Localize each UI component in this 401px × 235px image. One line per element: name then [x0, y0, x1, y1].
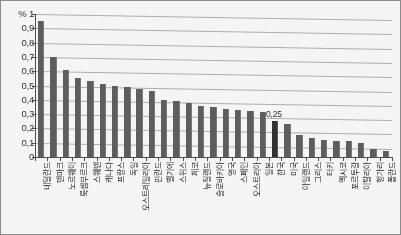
x-axis-tick-mark — [97, 157, 98, 161]
bar — [309, 138, 315, 157]
x-axis-category-label: 오스트레일리아 — [143, 162, 152, 232]
x-axis-category-label: 그리스 — [315, 162, 324, 232]
x-axis-tick-mark — [220, 157, 221, 161]
y-axis-tick-mark — [32, 43, 36, 44]
y-axis-tick-mark — [32, 114, 36, 115]
plot-area: 0,25 — [35, 14, 392, 157]
bar — [284, 124, 290, 157]
bar — [370, 149, 376, 157]
y-axis-tick-label: 0,1 — [4, 138, 34, 147]
bar — [296, 135, 302, 157]
x-axis-tick-mark — [207, 157, 208, 161]
bar — [358, 143, 364, 157]
x-axis-tick-mark — [47, 157, 48, 161]
bar — [149, 91, 155, 157]
x-axis-category-label: 미국 — [291, 162, 300, 232]
x-axis-category-label: 캐나다 — [106, 162, 115, 232]
bar — [321, 140, 327, 157]
x-axis-category-label: 스페인 — [241, 162, 250, 232]
bar — [198, 106, 204, 157]
x-axis-tick-mark — [146, 157, 147, 161]
x-axis-tick-mark — [35, 157, 36, 161]
x-axis-category-label: 뉴질랜드 — [204, 162, 213, 232]
gridline — [35, 28, 392, 35]
x-axis-category-label: 멕시코 — [340, 162, 349, 232]
bar-chart-figure: % 10,90,80,70,60,50,40,30,20,10 0,25 네덜란… — [0, 0, 401, 235]
x-axis-tick-mark — [367, 157, 368, 161]
x-axis-category-label: 덴마크 — [57, 162, 66, 232]
x-axis-category-label: 독일 — [131, 162, 140, 232]
y-axis-tick-label: 0,8 — [4, 38, 34, 47]
x-axis-category-label: 노르웨이 — [69, 162, 78, 232]
x-axis-tick-mark — [195, 157, 196, 161]
x-axis-category-label: 벨기에 — [167, 162, 176, 232]
x-axis-tick-mark — [269, 157, 270, 161]
x-axis-tick-mark — [244, 157, 245, 161]
frame-border-top — [0, 0, 401, 1]
x-axis-category-label: 프랑스 — [118, 162, 127, 232]
bar — [210, 107, 216, 157]
bar — [50, 57, 56, 157]
x-axis-tick-mark — [343, 157, 344, 161]
bar — [161, 100, 167, 157]
x-axis-tick-mark — [121, 157, 122, 161]
y-axis-tick-label: 0,5 — [4, 81, 34, 90]
x-axis-tick-mark — [330, 157, 331, 161]
gridline — [35, 43, 392, 50]
x-axis-category-label: 일본 — [266, 162, 275, 232]
x-axis-category-label: 폴란드 — [389, 162, 398, 232]
bar — [346, 141, 352, 157]
bar — [247, 111, 253, 157]
y-axis-tick-label: 0,9 — [4, 23, 34, 32]
bar — [235, 110, 241, 157]
x-axis-category-label: 핀란드 — [155, 162, 164, 232]
y-axis-tick-label: 0,2 — [4, 123, 34, 132]
bar — [136, 89, 142, 157]
y-axis-tick-mark — [32, 128, 36, 129]
bar — [260, 112, 266, 157]
x-axis-category-label: 영국 — [229, 162, 238, 232]
bar — [124, 87, 130, 157]
bar — [223, 109, 229, 157]
bar — [63, 70, 69, 157]
y-axis-tick-label: 0,3 — [4, 109, 34, 118]
x-axis-tick-mark — [84, 157, 85, 161]
x-axis-category-label: 포르투갈 — [352, 162, 361, 232]
y-axis-tick-label: 0 — [4, 152, 34, 161]
bar — [87, 81, 93, 157]
y-axis-tick-mark — [32, 100, 36, 101]
bar — [100, 84, 106, 157]
x-axis-tick-mark — [158, 157, 159, 161]
x-axis-tick-mark — [281, 157, 282, 161]
bar — [383, 151, 389, 157]
x-axis-category-label: 터키 — [327, 162, 336, 232]
y-axis-tick-mark — [32, 143, 36, 144]
x-axis-category-label: 슬로바키아 — [217, 162, 226, 232]
x-axis-category-label: 헝가리 — [377, 162, 386, 232]
x-axis-category-label: 룩셈부르크 — [81, 162, 90, 232]
x-axis-tick-mark — [183, 157, 184, 161]
y-axis-tick-mark — [32, 57, 36, 58]
gridline — [35, 71, 392, 78]
y-axis-tick-label: 0,6 — [4, 66, 34, 75]
bar — [112, 86, 118, 158]
x-axis-category-label: 오스트리아 — [254, 162, 263, 232]
x-axis-tick-mark — [170, 157, 171, 161]
y-axis-tick-labels: % 10,90,80,70,60,50,40,30,20,10 — [0, 0, 34, 165]
x-axis-tick-mark — [257, 157, 258, 161]
x-axis-category-label: 네덜란드 — [44, 162, 53, 232]
y-axis-tick-label: 0,7 — [4, 52, 34, 61]
bar-value-label: 0,25 — [266, 109, 282, 119]
gridline — [35, 57, 392, 64]
x-axis-category-label: 스위스 — [180, 162, 189, 232]
gridline — [35, 14, 392, 21]
bar — [38, 21, 44, 157]
x-axis-tick-mark — [72, 157, 73, 161]
x-axis-tick-mark — [232, 157, 233, 161]
bar-highlighted — [272, 121, 278, 157]
y-axis-tick-label: 0,4 — [4, 95, 34, 104]
y-axis-tick-mark — [32, 14, 36, 15]
bar — [333, 141, 339, 157]
x-axis-category-label: 아일랜드 — [303, 162, 312, 232]
x-axis-tick-mark — [392, 157, 393, 161]
